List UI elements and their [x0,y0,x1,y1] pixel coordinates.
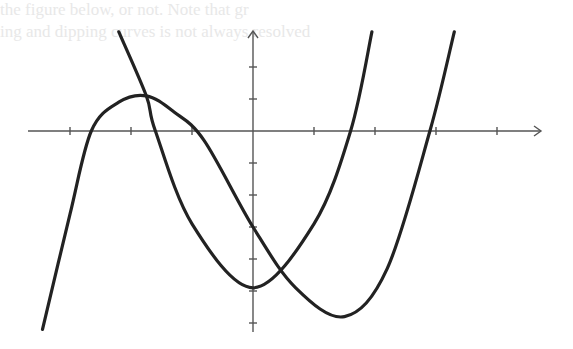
function-graph [0,0,573,349]
axes [28,31,541,332]
cubic-curve [43,32,455,330]
curves [43,32,455,330]
tick-marks [70,67,497,323]
parabola-curve [119,32,372,288]
